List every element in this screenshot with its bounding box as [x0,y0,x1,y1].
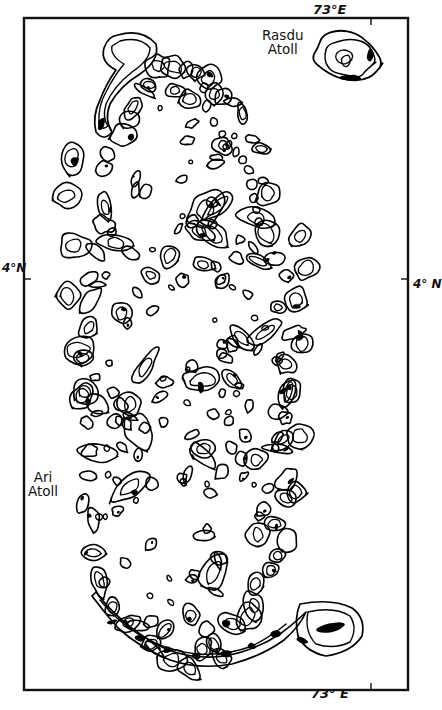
ari-atoll-label: AriAtoll [28,470,58,498]
rasdu-atoll-label: RasduAtoll [262,28,304,56]
coord-label-right: 4° N [413,277,442,291]
coord-label-left: 4°N [2,261,26,275]
coord-label-top: 73°E [313,2,346,17]
coord-label-bottom: 73° E [311,686,349,701]
